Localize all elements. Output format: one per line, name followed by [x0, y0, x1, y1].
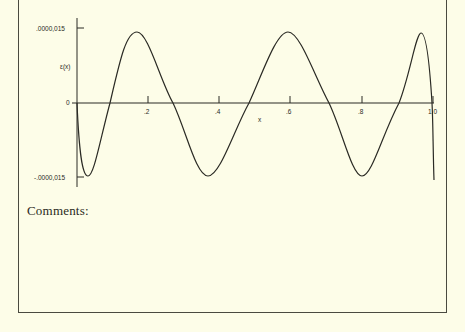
y-tick-label-zero: 0: [66, 99, 70, 106]
y-tick-label-top: .0000,015: [36, 25, 65, 32]
error-curve-chart: .0000,015 0 -.0000,015 ε(x) x .2 .4 .6 .…: [0, 0, 465, 332]
x-tick-label-0-6: .6: [286, 108, 292, 115]
comments-label: Comments:: [27, 203, 89, 219]
y-tick-label-bottom: -.0000,015: [34, 174, 65, 181]
x-axis-title: x: [258, 116, 262, 123]
x-tick-label-0-8: .8: [358, 108, 364, 115]
y-axis-title: ε(x): [60, 63, 70, 71]
x-tick-label-0-4: .4: [215, 108, 221, 115]
x-tick-label-0-2: .2: [144, 108, 150, 115]
error-curve: [77, 32, 434, 180]
